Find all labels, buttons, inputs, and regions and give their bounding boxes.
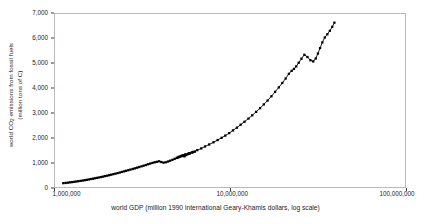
data-point — [328, 30, 330, 32]
x-tick-label: 100,000,000 — [380, 191, 415, 197]
data-point — [295, 65, 297, 67]
data-point — [125, 170, 127, 172]
data-point — [287, 73, 289, 75]
y-axis-title-line1: world CO — [7, 121, 14, 147]
data-point — [316, 52, 318, 54]
y-tick-mark — [51, 163, 54, 164]
data-point — [333, 22, 335, 24]
data-point — [326, 33, 328, 35]
data-point — [188, 152, 190, 154]
y-tick-label: 6,000 — [22, 35, 51, 41]
y-axis-title-line1b: emissions from fossil fuels — [7, 43, 14, 118]
y-tick-mark — [51, 138, 54, 139]
x-tick-mark — [406, 188, 407, 191]
data-point — [79, 180, 81, 182]
data-point — [155, 161, 157, 163]
data-point — [97, 176, 99, 178]
y-axis-title-subscript: 2 — [10, 118, 15, 121]
data-point — [89, 178, 91, 180]
data-point — [180, 154, 182, 156]
y-tick-label: 0 — [22, 185, 51, 191]
data-point — [318, 47, 320, 49]
data-point — [73, 181, 75, 183]
data-point — [75, 180, 77, 182]
data-point — [290, 70, 292, 72]
data-point — [312, 60, 314, 62]
data-point — [247, 117, 249, 119]
y-tick-label: 5,000 — [22, 60, 51, 66]
data-point — [62, 182, 64, 184]
data-point — [216, 139, 218, 141]
data-point — [309, 59, 311, 61]
data-point — [169, 160, 171, 162]
data-point — [160, 161, 162, 163]
data-point — [116, 172, 118, 174]
y-tick-mark — [51, 63, 54, 64]
data-point — [321, 41, 323, 43]
data-point — [142, 165, 144, 167]
data-point — [281, 82, 283, 84]
data-point — [273, 91, 275, 93]
data-point — [191, 151, 193, 153]
y-tick-label: 3,000 — [22, 110, 51, 116]
y-tick-label: 4,000 — [22, 85, 51, 91]
data-point — [164, 161, 166, 163]
data-point — [157, 160, 159, 162]
data-point — [110, 174, 112, 176]
data-point — [235, 127, 237, 129]
y-tick-label: 2,000 — [22, 135, 51, 141]
data-point — [277, 86, 279, 88]
y-tick-mark — [51, 88, 54, 89]
data-point — [251, 114, 253, 116]
data-point — [303, 54, 305, 56]
data-line — [63, 23, 334, 184]
y-axis-ticks: 01,0002,0003,0004,0005,0006,0007,000 — [22, 0, 51, 224]
y-tick-mark — [51, 13, 54, 14]
data-point — [171, 159, 173, 161]
data-point — [231, 129, 233, 131]
data-point — [71, 181, 73, 183]
data-point — [129, 168, 131, 170]
data-point — [146, 163, 148, 165]
data-point — [254, 111, 256, 113]
data-point — [68, 181, 70, 183]
data-point — [300, 58, 302, 60]
plot-area — [54, 13, 406, 188]
data-point — [203, 145, 205, 147]
data-point — [306, 56, 308, 58]
data-series-svg — [55, 14, 405, 187]
data-point — [114, 173, 116, 175]
x-tick-mark — [230, 188, 231, 191]
data-point — [212, 141, 214, 143]
x-axis-title: world GDP (million 1990 international Ge… — [0, 204, 431, 212]
data-point — [262, 103, 264, 105]
data-point — [196, 149, 198, 151]
data-point — [239, 124, 241, 126]
data-point — [83, 179, 85, 181]
data-point — [120, 171, 122, 173]
data-point — [140, 165, 142, 167]
data-point — [66, 182, 68, 184]
data-point — [185, 154, 187, 156]
data-point — [220, 137, 222, 139]
x-tick-label: 1,000,000 — [53, 191, 81, 197]
data-point — [331, 26, 333, 28]
data-point — [112, 173, 114, 175]
data-point — [224, 134, 226, 136]
data-point — [105, 175, 107, 177]
data-point — [177, 156, 179, 158]
data-markers — [62, 22, 335, 185]
x-tick-label: 10,000,000 — [217, 191, 249, 197]
data-point — [127, 169, 129, 171]
data-point — [118, 171, 120, 173]
data-point — [122, 170, 124, 172]
data-point — [228, 132, 230, 134]
data-point — [144, 164, 146, 166]
data-point — [266, 99, 268, 101]
data-point — [297, 62, 299, 64]
data-point — [243, 121, 245, 123]
data-point — [103, 175, 105, 177]
data-point — [99, 176, 101, 178]
data-point — [166, 160, 168, 162]
x-tick-mark — [54, 188, 55, 191]
